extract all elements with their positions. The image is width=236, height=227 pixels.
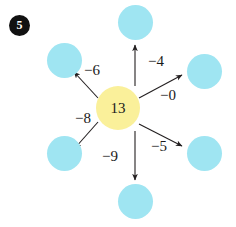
answer-circle-top-left[interactable] (47, 43, 82, 78)
operation-label-bottom-left: −8 (75, 110, 91, 127)
answer-circle-top-right[interactable] (187, 54, 222, 89)
operation-label-bottom-right: −5 (151, 138, 167, 155)
spider-diagram: 13 −4 −0 −5 −9 −8 −6 (0, 0, 236, 227)
answer-circle-top[interactable] (118, 5, 153, 40)
operation-label-top-right: −0 (160, 87, 176, 104)
worksheet-question: 5 13 −4 −0 (0, 0, 236, 227)
operation-label-top: −4 (148, 53, 164, 70)
center-value-circle: 13 (96, 86, 140, 130)
answer-circle-bottom-right[interactable] (187, 136, 222, 171)
operation-label-top-left: −6 (84, 62, 100, 79)
operation-label-bottom: −9 (102, 148, 118, 165)
answer-circle-bottom[interactable] (118, 184, 153, 219)
answer-circle-bottom-left[interactable] (47, 136, 82, 171)
